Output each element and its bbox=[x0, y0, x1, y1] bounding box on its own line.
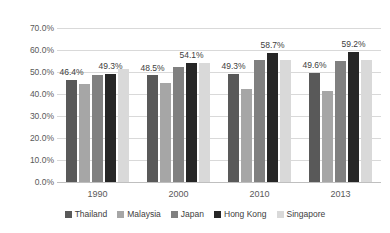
legend-swatch-icon bbox=[171, 211, 178, 218]
legend-label: Japan bbox=[181, 210, 204, 219]
bar bbox=[348, 52, 359, 182]
legend-item-hong-kong[interactable]: Hong Kong bbox=[214, 210, 267, 219]
gridline bbox=[57, 182, 381, 183]
legend-item-singapore[interactable]: Singapore bbox=[277, 210, 326, 219]
bar-chart: 46.4%49.3%48.5%54.1%49.3%58.7%49.6%59.2%… bbox=[0, 0, 390, 233]
bar-slot: 54.1% bbox=[186, 28, 197, 182]
plot-area: 46.4%49.3%48.5%54.1%49.3%58.7%49.6%59.2% bbox=[57, 28, 381, 182]
legend-label: Malaysia bbox=[127, 210, 161, 219]
bar bbox=[173, 67, 184, 183]
legend-item-malaysia[interactable]: Malaysia bbox=[117, 210, 161, 219]
bar-slot bbox=[335, 28, 346, 182]
y-axis-tick-label: 0.0% bbox=[0, 178, 54, 187]
bar-group: 49.6%59.2% bbox=[300, 28, 381, 182]
bar-slot: 59.2% bbox=[348, 28, 359, 182]
y-axis-tick-label: 10.0% bbox=[0, 156, 54, 165]
bar bbox=[267, 53, 278, 182]
bar bbox=[228, 74, 239, 182]
y-axis-tick-label: 20.0% bbox=[0, 134, 54, 143]
bar bbox=[322, 91, 333, 182]
x-axis: 1990200020102013 bbox=[57, 186, 381, 202]
bar-group: 48.5%54.1% bbox=[138, 28, 219, 182]
bar-slot bbox=[322, 28, 333, 182]
y-axis-tick-label: 30.0% bbox=[0, 112, 54, 121]
legend-item-japan[interactable]: Japan bbox=[171, 210, 204, 219]
legend-item-thailand[interactable]: Thailand bbox=[65, 210, 108, 219]
bar-group: 49.3%58.7% bbox=[219, 28, 300, 182]
bar bbox=[105, 74, 116, 182]
bar-slot: 49.3% bbox=[228, 28, 239, 182]
bar-slot bbox=[118, 28, 129, 182]
bar bbox=[92, 75, 103, 182]
bar bbox=[160, 83, 171, 182]
legend-label: Singapore bbox=[287, 210, 326, 219]
bar bbox=[66, 80, 77, 182]
y-axis-tick-label: 40.0% bbox=[0, 90, 54, 99]
bar bbox=[186, 63, 197, 182]
bar bbox=[335, 61, 346, 182]
bar-slot bbox=[361, 28, 372, 182]
x-axis-tick-label: 1990 bbox=[57, 186, 138, 202]
bar bbox=[79, 84, 90, 182]
y-axis-tick-label: 70.0% bbox=[0, 24, 54, 33]
legend-swatch-icon bbox=[277, 211, 284, 218]
chart-legend: ThailandMalaysiaJapanHong KongSingapore bbox=[0, 206, 390, 222]
legend-label: Hong Kong bbox=[224, 210, 267, 219]
legend-swatch-icon bbox=[117, 211, 124, 218]
bar-slot: 49.3% bbox=[105, 28, 116, 182]
bar bbox=[118, 69, 129, 182]
bar bbox=[147, 75, 158, 182]
x-axis-tick-label: 2010 bbox=[219, 186, 300, 202]
bar-slot bbox=[199, 28, 210, 182]
bar-slot: 49.6% bbox=[309, 28, 320, 182]
bar-slot bbox=[280, 28, 291, 182]
bar bbox=[280, 60, 291, 182]
bar bbox=[254, 60, 265, 182]
bar bbox=[199, 63, 210, 182]
x-axis-tick-label: 2000 bbox=[138, 186, 219, 202]
legend-swatch-icon bbox=[214, 211, 221, 218]
x-axis-tick-label: 2013 bbox=[300, 186, 381, 202]
bar-slot bbox=[254, 28, 265, 182]
bar-slot bbox=[79, 28, 90, 182]
bar-group: 46.4%49.3% bbox=[57, 28, 138, 182]
bar-groups: 46.4%49.3%48.5%54.1%49.3%58.7%49.6%59.2% bbox=[57, 28, 381, 182]
bar-slot: 48.5% bbox=[147, 28, 158, 182]
bar-slot bbox=[92, 28, 103, 182]
bar bbox=[361, 60, 372, 182]
legend-label: Thailand bbox=[75, 210, 108, 219]
bar bbox=[309, 73, 320, 182]
legend-swatch-icon bbox=[65, 211, 72, 218]
y-axis-tick-label: 50.0% bbox=[0, 68, 54, 77]
y-axis-tick-label: 60.0% bbox=[0, 46, 54, 55]
bar bbox=[241, 89, 252, 183]
bar-slot: 46.4% bbox=[66, 28, 77, 182]
bar-slot bbox=[160, 28, 171, 182]
bar-slot bbox=[241, 28, 252, 182]
bar-slot: 58.7% bbox=[267, 28, 278, 182]
